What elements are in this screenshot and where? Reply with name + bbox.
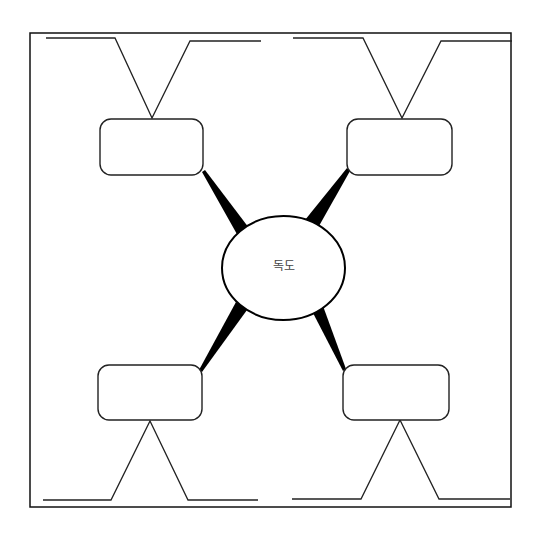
writing-line-top-left xyxy=(46,38,261,118)
writing-line-bottom-left xyxy=(43,421,258,500)
connector-top-right xyxy=(305,168,350,226)
branch-box-bottom-right[interactable] xyxy=(343,365,449,420)
branch-box-top-right[interactable] xyxy=(347,119,452,175)
connector-bottom-right xyxy=(313,306,346,371)
branch-box-bottom-left[interactable] xyxy=(98,365,202,420)
connector-bottom-left xyxy=(199,302,247,372)
connector-top-left xyxy=(202,170,249,236)
center-node-label: 독도 xyxy=(222,256,345,273)
branch-box-top-left[interactable] xyxy=(100,119,203,175)
writing-line-top-right xyxy=(293,38,512,118)
writing-line-bottom-right xyxy=(292,420,510,499)
